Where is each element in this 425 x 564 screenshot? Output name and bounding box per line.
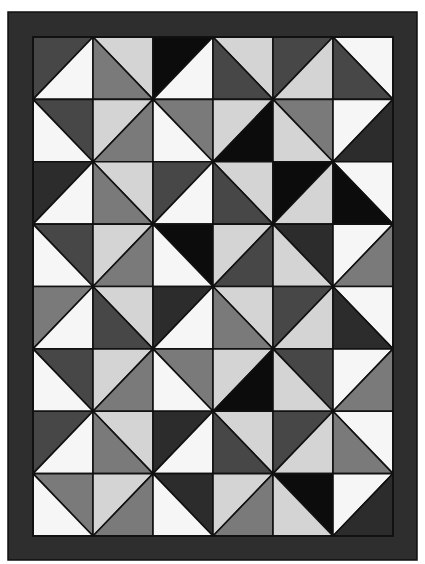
quilt-block — [33, 349, 93, 411]
quilt-block — [93, 287, 153, 349]
quilt-block — [93, 224, 153, 286]
quilt-block — [333, 99, 393, 161]
quilt-block — [273, 411, 333, 473]
quilt-block — [33, 37, 93, 99]
quilt-block — [153, 474, 213, 536]
quilt-block — [153, 287, 213, 349]
quilt-block — [213, 287, 273, 349]
quilt-block — [273, 37, 333, 99]
quilt-block — [213, 474, 273, 536]
quilt-block — [153, 162, 213, 224]
quilt-block — [93, 474, 153, 536]
quilt-block — [33, 411, 93, 473]
quilt-block — [153, 349, 213, 411]
quilt-block — [153, 224, 213, 286]
quilt-block — [333, 474, 393, 536]
quilt-block — [333, 287, 393, 349]
quilt-block — [333, 37, 393, 99]
quilt-block — [273, 224, 333, 286]
quilt-blocks — [33, 37, 393, 536]
quilt-block — [93, 411, 153, 473]
quilt-block — [93, 37, 153, 99]
quilt-block — [153, 99, 213, 161]
quilt-block — [333, 224, 393, 286]
quilt-block — [333, 162, 393, 224]
quilt-block — [213, 162, 273, 224]
quilt-block — [273, 349, 333, 411]
quilt-block — [273, 287, 333, 349]
quilt-block — [333, 411, 393, 473]
quilt-block — [153, 411, 213, 473]
quilt-block — [213, 411, 273, 473]
quilt-block — [93, 349, 153, 411]
quilt-block — [33, 99, 93, 161]
quilt-block — [33, 224, 93, 286]
quilt-block — [273, 474, 333, 536]
quilt-block — [213, 349, 273, 411]
quilt-block — [33, 474, 93, 536]
quilt-image — [0, 0, 425, 564]
quilt-block — [153, 37, 213, 99]
quilt-block — [273, 162, 333, 224]
quilt-block — [213, 37, 273, 99]
quilt-block — [333, 349, 393, 411]
quilt-block — [213, 224, 273, 286]
quilt-block — [33, 162, 93, 224]
quilt-block — [213, 99, 273, 161]
quilt-block — [93, 99, 153, 161]
quilt-block — [33, 287, 93, 349]
quilt-block — [93, 162, 153, 224]
quilt-block — [273, 99, 333, 161]
